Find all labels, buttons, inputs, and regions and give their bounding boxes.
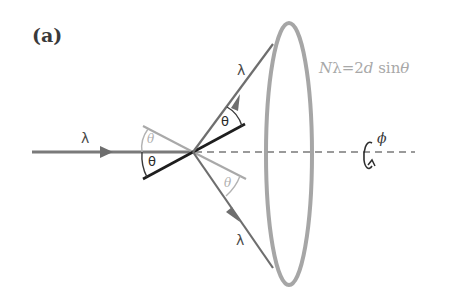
- equation-sin: sin: [373, 59, 400, 77]
- incident-angle-arc: [142, 152, 147, 177]
- upper-theta-label: θ: [221, 115, 229, 128]
- upper-diffracted-beam: [193, 44, 273, 152]
- lower-beam-arrow-icon: [226, 207, 240, 222]
- panel-label: (a): [32, 26, 62, 45]
- incident-wavelength-label: λ: [81, 131, 89, 145]
- incident-beam-arrow-icon: [100, 146, 113, 158]
- upper-beam-arrow-icon: [231, 94, 240, 111]
- bragg-law-equation: Nλ=2d sinθ: [319, 61, 409, 76]
- ghost-theta-right-label: θ: [224, 177, 231, 189]
- equation-d: d: [364, 59, 374, 77]
- equation-n: N: [319, 59, 332, 77]
- diffraction-cone-ring: [266, 23, 312, 285]
- equation-lambda: λ: [332, 59, 342, 77]
- incident-theta-label: θ: [148, 155, 156, 168]
- phi-rotation-arrow-icon: [368, 160, 375, 166]
- phi-label: ϕ: [377, 131, 387, 145]
- diagram-graphics: [0, 0, 465, 299]
- equation-equals-two: =2: [342, 59, 364, 77]
- ghost-theta-left-label: θ: [147, 133, 154, 145]
- ghost-plane-right: [193, 152, 246, 179]
- upper-wavelength-label: λ: [237, 63, 245, 77]
- lower-wavelength-label: λ: [236, 233, 244, 247]
- upper-angle-arc: [227, 107, 242, 126]
- equation-theta: θ: [400, 59, 409, 77]
- bragg-diffraction-diagram: (a) λ λ λ θ θ θ θ Nλ=2d sinθ ϕ: [0, 0, 465, 299]
